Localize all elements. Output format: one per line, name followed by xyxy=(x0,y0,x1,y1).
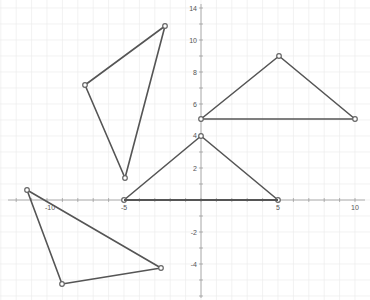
vertex-point[interactable] xyxy=(199,134,204,139)
y-tick-label: 10 xyxy=(189,37,197,44)
vertex-point[interactable] xyxy=(353,117,358,122)
vertex-point[interactable] xyxy=(199,117,204,122)
vertex-point[interactable] xyxy=(60,282,65,287)
vertex-point[interactable] xyxy=(83,83,88,88)
vertex-point[interactable] xyxy=(25,188,30,193)
triangle-lower-left xyxy=(25,188,164,287)
triangle-edge xyxy=(85,26,165,178)
axes xyxy=(8,4,365,298)
vertex-point[interactable] xyxy=(159,266,164,271)
x-tick-label: 5 xyxy=(276,204,280,211)
y-tick-label: 8 xyxy=(193,69,197,76)
x-tick-label: 10 xyxy=(351,204,359,211)
vertex-point[interactable] xyxy=(277,54,282,59)
coordinate-plane: -10-551014108642-2-4 xyxy=(0,0,370,300)
triangles xyxy=(25,24,358,287)
y-tick-label: -2 xyxy=(191,229,197,236)
y-tick-label: -4 xyxy=(191,261,197,268)
vertex-point[interactable] xyxy=(163,24,168,29)
y-tick-label: 4 xyxy=(193,132,197,139)
vertex-point[interactable] xyxy=(123,176,128,181)
y-tick-label: 6 xyxy=(193,101,197,108)
y-tick-label: 2 xyxy=(193,165,197,172)
x-tick-label: -5 xyxy=(121,204,127,211)
y-tick-label: 14 xyxy=(189,5,197,12)
